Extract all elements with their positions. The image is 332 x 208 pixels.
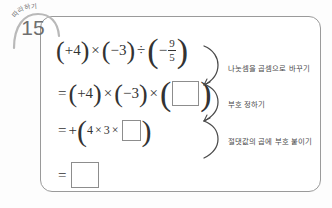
annotation-step-1: 나눗셈을 곱셈으로 바꾸기 — [228, 62, 310, 73]
term-four: 4 — [87, 123, 93, 138]
answer-blank-2[interactable] — [122, 120, 141, 141]
equals-sign-2: = — [58, 85, 66, 102]
equation-line-3: = + ( 4 × 3 × ) — [56, 120, 152, 141]
worksheet-page: 따라하기 15 ( +4 ) × ( −3 ) ÷ ( − 9 5 ) — [0, 0, 332, 208]
annotation-step-2: 부호 정하기 — [228, 98, 265, 109]
times-operator-5: × — [112, 123, 119, 138]
term-plus-four-2: +4 — [77, 85, 93, 102]
divide-operator: ÷ — [137, 42, 145, 59]
answer-blank-1[interactable] — [172, 81, 199, 106]
badge-number: 15 — [8, 16, 58, 40]
fraction-sign: − — [159, 42, 167, 59]
term-three: 3 — [104, 123, 110, 138]
term-minus-three-2: −3 — [123, 85, 139, 102]
times-operator-2: × — [104, 85, 112, 102]
times-operator-1: × — [91, 42, 99, 59]
fraction-denominator: 5 — [168, 52, 176, 63]
brace-icon-3 — [198, 119, 228, 161]
term-minus-three: −3 — [110, 42, 126, 59]
term-plus-four: +4 — [65, 42, 81, 59]
fraction-numerator: 9 — [168, 38, 176, 49]
answer-blank-3[interactable] — [71, 162, 99, 188]
times-operator-3: × — [150, 85, 158, 102]
equals-sign-4: = — [58, 167, 66, 184]
annotation-step-3: 절댓값의 곱에 부호 붙이기 — [228, 135, 312, 146]
times-operator-4: × — [95, 123, 102, 138]
equation-line-4: = — [56, 162, 99, 188]
plus-sign-3: + — [68, 122, 76, 139]
equation-line-2: = ( +4 ) × ( −3 ) × ( ) — [56, 81, 212, 106]
equals-sign-3: = — [58, 122, 66, 139]
equation-line-1: ( +4 ) × ( −3 ) ÷ ( − 9 5 ) — [56, 38, 188, 63]
brace-icon-2 — [198, 82, 228, 124]
fraction-nine-fifths: 9 5 — [168, 38, 176, 63]
